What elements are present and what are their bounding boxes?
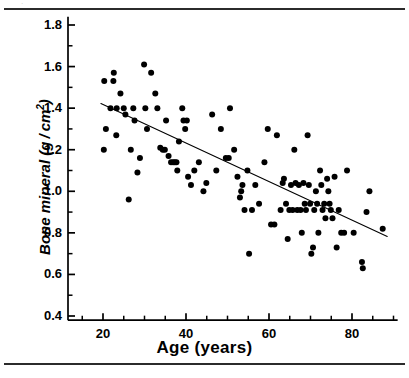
data-point (132, 118, 138, 124)
data-point (184, 118, 190, 124)
data-point (380, 226, 386, 232)
data-point (341, 230, 347, 236)
data-point (113, 132, 119, 138)
data-point (209, 111, 215, 117)
data-point (283, 201, 289, 207)
data-point (249, 207, 255, 213)
data-point (271, 222, 277, 228)
data-point (307, 201, 313, 207)
data-point (130, 105, 136, 111)
data-point (174, 168, 180, 174)
y-axis-title-exponent: 2 (35, 104, 46, 110)
data-point (364, 209, 370, 215)
data-point (239, 182, 245, 188)
data-point (176, 138, 182, 144)
data-point (359, 259, 365, 265)
data-point (305, 132, 311, 138)
data-point (110, 78, 116, 84)
data-point (320, 207, 326, 213)
data-point (311, 207, 317, 213)
data-point (196, 159, 202, 165)
data-point (163, 118, 169, 124)
data-point (191, 168, 197, 174)
data-point (231, 147, 237, 153)
data-point (126, 197, 132, 203)
data-point (306, 182, 312, 188)
data-point (141, 61, 147, 67)
data-point (344, 168, 350, 174)
data-point (237, 195, 243, 201)
data-point (173, 159, 179, 165)
data-point (148, 70, 154, 76)
data-point (310, 244, 316, 250)
y-axis-title: Bone mineral (g / cm2) (35, 47, 53, 307)
data-point (154, 105, 160, 111)
data-point (200, 188, 206, 194)
data-point (291, 147, 297, 153)
data-point (321, 201, 327, 207)
data-point (188, 182, 194, 188)
data-point-markers (101, 61, 386, 271)
data-point (313, 188, 319, 194)
data-point (179, 105, 185, 111)
data-point (322, 215, 328, 221)
data-point (315, 230, 321, 236)
x-axis-title: Age (years) (0, 338, 409, 358)
data-point (327, 201, 333, 207)
data-point (213, 168, 219, 174)
data-point (218, 126, 224, 132)
data-point (299, 230, 305, 236)
data-point (246, 251, 252, 257)
data-point (328, 207, 334, 213)
tick-marks (68, 25, 394, 320)
data-point (242, 207, 248, 213)
y-axis-title-close: ) (36, 99, 53, 104)
data-point (166, 153, 172, 159)
data-point (226, 155, 232, 161)
data-point (182, 126, 188, 132)
data-point (329, 215, 335, 221)
data-point (308, 251, 314, 257)
data-point (111, 70, 117, 76)
data-point (144, 126, 150, 132)
data-point (152, 91, 158, 97)
data-point (261, 159, 267, 165)
data-point (142, 105, 148, 111)
data-point (117, 91, 123, 97)
data-point (114, 105, 120, 111)
data-point (234, 174, 240, 180)
data-point (107, 105, 113, 111)
data-point (325, 188, 331, 194)
figure-container: · 0.40.60.81.01.21.41.61.820406080 Bone … (0, 0, 409, 378)
data-point (265, 126, 271, 132)
data-point (256, 201, 262, 207)
data-point (162, 147, 168, 153)
data-point (137, 155, 143, 161)
data-point (101, 147, 107, 153)
y-tick-label: 0.4 (22, 308, 62, 323)
data-point (278, 207, 284, 213)
data-point (101, 78, 107, 84)
data-point (122, 111, 128, 117)
data-point (227, 105, 233, 111)
y-axis-title-main: Bone mineral (g / cm (36, 110, 53, 255)
data-point (285, 236, 291, 242)
data-point (336, 207, 342, 213)
bottom-border-rule (4, 363, 405, 365)
data-point (185, 174, 191, 180)
data-point (351, 230, 357, 236)
data-point (302, 201, 308, 207)
data-point (121, 105, 127, 111)
data-point (252, 182, 258, 188)
data-point (324, 176, 330, 182)
data-point (203, 180, 209, 186)
data-point (274, 132, 280, 138)
data-point (298, 207, 304, 213)
data-point (134, 170, 140, 176)
data-point (300, 180, 306, 186)
data-point (317, 168, 323, 174)
data-point (128, 147, 134, 153)
data-point (314, 201, 320, 207)
data-point (281, 176, 287, 182)
data-point (318, 182, 324, 188)
